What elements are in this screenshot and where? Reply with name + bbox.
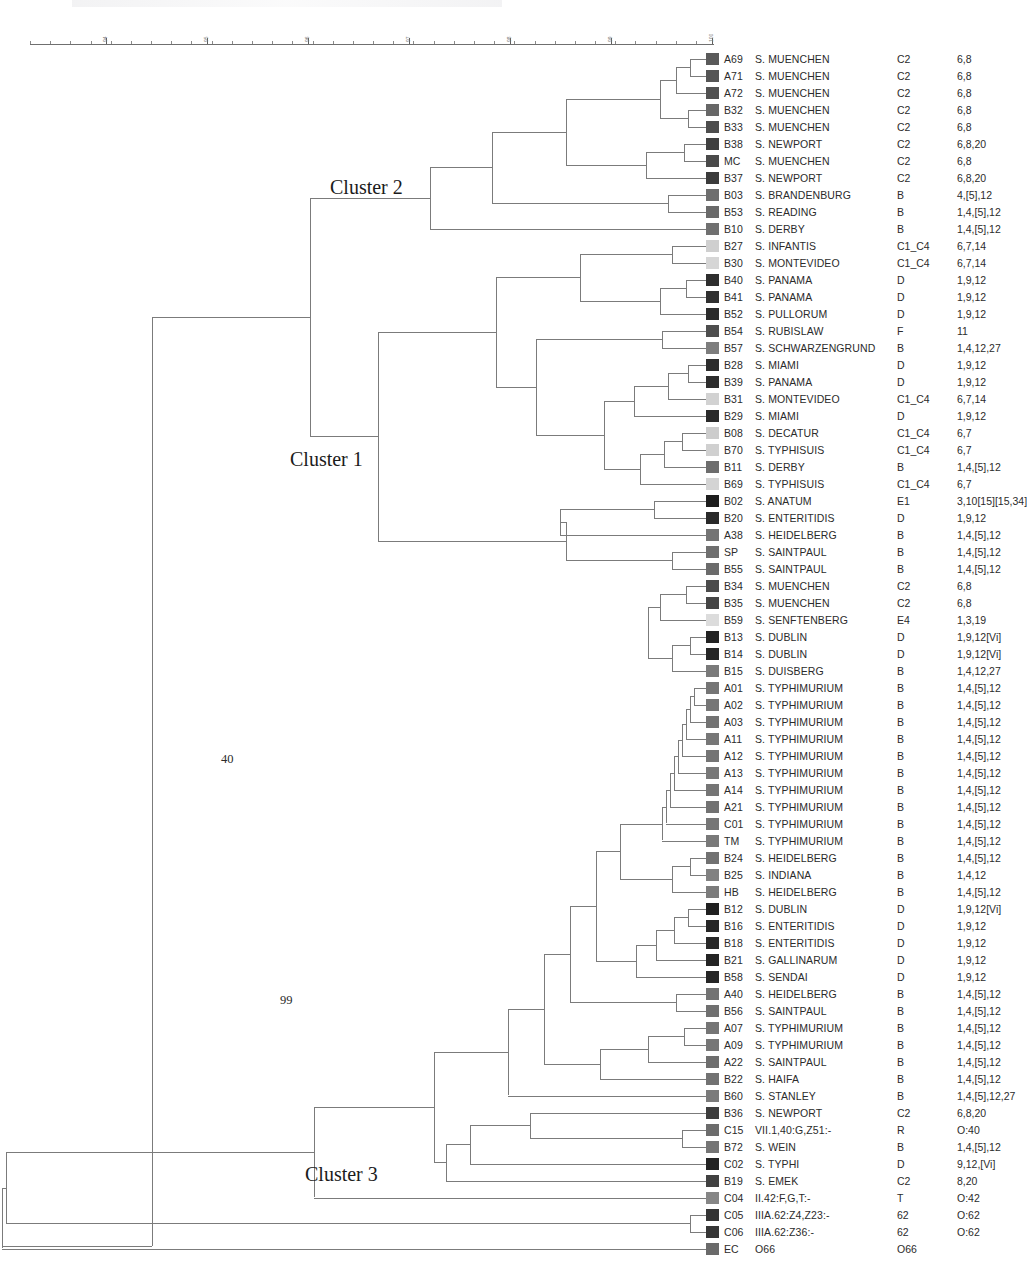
taxon-row[interactable]: B20S. ENTERITIDISD1,9,12	[706, 509, 986, 526]
taxon-row[interactable]: A02S. TYPHIMURIUMB1,4,[5],12	[706, 696, 1001, 713]
taxon-row[interactable]: A40S. HEIDELBERGB1,4,[5],12	[706, 985, 1001, 1002]
taxon-row[interactable]: B69S. TYPHISUISC1_C46,7	[706, 475, 972, 492]
taxon-row[interactable]: A71S. MUENCHENC26,8	[706, 67, 972, 84]
taxon-row[interactable]: B56S. SAINTPAULB1,4,[5],12	[706, 1002, 1001, 1019]
taxon-row[interactable]: B10S. DERBYB1,4,[5],12	[706, 220, 1001, 237]
taxon-id: C01	[724, 818, 755, 830]
taxon-row[interactable]: B15S. DUISBERGB1,4,12,27	[706, 662, 1001, 679]
tree-branch-horizontal	[600, 1049, 648, 1050]
axis-minor-tick	[555, 41, 556, 44]
axis-tick-label: 96	[304, 36, 310, 42]
taxon-row[interactable]: B39S. PANAMAD1,9,12	[706, 373, 986, 390]
taxon-row[interactable]: B13S. DUBLIND1,9,12[Vi]	[706, 628, 1001, 645]
taxon-row[interactable]: A13S. TYPHIMURIUMB1,4,[5],12	[706, 764, 1001, 781]
taxon-row[interactable]: B60S. STANLEYB1,4,[5],12,27	[706, 1087, 1015, 1104]
taxon-serovar-name: S. SAINTPAUL	[755, 1056, 897, 1068]
taxon-row[interactable]: C02S. TYPHID9,12,[Vi]	[706, 1155, 995, 1172]
taxon-id: C04	[724, 1192, 755, 1204]
taxon-row[interactable]: A07S. TYPHIMURIUMB1,4,[5],12	[706, 1019, 1001, 1036]
tree-branch-horizontal	[6, 1152, 314, 1153]
taxon-row[interactable]: B22S. HAIFAB1,4,[5],12	[706, 1070, 1001, 1087]
taxon-row[interactable]: SPS. SAINTPAULB1,4,[5],12	[706, 543, 1001, 560]
taxon-row[interactable]: B27S. INFANTISC1_C46,7,14	[706, 237, 986, 254]
taxon-row[interactable]: B11S. DERBYB1,4,[5],12	[706, 458, 1001, 475]
taxon-row[interactable]: B70S. TYPHISUISC1_C46,7	[706, 441, 972, 458]
taxon-antigenic-formula: 1,4,[5],12	[957, 767, 1001, 779]
tree-branch-vertical	[690, 1215, 691, 1232]
taxon-serogroup: C1_C4	[897, 444, 957, 456]
tree-branch-horizontal	[676, 1011, 706, 1012]
taxon-row[interactable]: B16S. ENTERITIDISD1,9,12	[706, 917, 986, 934]
taxon-row[interactable]: B29S. MIAMID1,9,12	[706, 407, 986, 424]
taxon-row[interactable]: B41S. PANAMAD1,9,12	[706, 288, 986, 305]
taxon-row[interactable]: ECO66O66	[706, 1240, 957, 1257]
taxon-row[interactable]: B31S. MONTEVIDEOC1_C46,7,14	[706, 390, 986, 407]
taxon-antigenic-formula: 6,8	[957, 580, 972, 592]
taxon-row[interactable]: B52S. PULLORUMD1,9,12	[706, 305, 986, 322]
taxon-row[interactable]: B37S. NEWPORTC26,8,20	[706, 169, 986, 186]
taxon-row[interactable]: B55S. SAINTPAULB1,4,[5],12	[706, 560, 1001, 577]
taxon-row[interactable]: B03S. BRANDENBURGB4,[5],12	[706, 186, 992, 203]
taxon-row[interactable]: B32S. MUENCHENC26,8	[706, 101, 972, 118]
taxon-row[interactable]: B38S. NEWPORTC26,8,20	[706, 135, 986, 152]
taxon-row[interactable]: B24S. HEIDELBERGB1,4,[5],12	[706, 849, 1001, 866]
taxon-row[interactable]: B08S. DECATURC1_C46,7	[706, 424, 972, 441]
taxon-row[interactable]: B72S. WEINB1,4,[5],12	[706, 1138, 1001, 1155]
taxon-id: B57	[724, 342, 755, 354]
taxon-row[interactable]: A69S. MUENCHENC26,8	[706, 50, 972, 67]
taxon-row[interactable]: A11S. TYPHIMURIUMB1,4,[5],12	[706, 730, 1001, 747]
taxon-row[interactable]: B58S. SENDAID1,9,12	[706, 968, 986, 985]
taxon-id: B20	[724, 512, 755, 524]
taxon-row[interactable]: B19S. EMEKC28,20	[706, 1172, 977, 1189]
taxon-row[interactable]: B14S. DUBLIND1,9,12[Vi]	[706, 645, 1001, 662]
taxon-row[interactable]: A72S. MUENCHENC26,8	[706, 84, 972, 101]
taxon-antigenic-formula: 1,3,19	[957, 614, 986, 626]
taxon-row[interactable]: C15VII.1,40:G,Z51:-RO:40	[706, 1121, 980, 1138]
gel-band-swatch	[706, 852, 719, 864]
taxon-row[interactable]: B02S. ANATUME13,10[15][15,34]	[706, 492, 1027, 509]
taxon-row[interactable]: A12S. TYPHIMURIUMB1,4,[5],12	[706, 747, 1001, 764]
taxon-row[interactable]: B28S. MIAMID1,9,12	[706, 356, 986, 373]
taxon-serogroup: 62	[897, 1209, 957, 1221]
taxon-row[interactable]: B18S. ENTERITIDISD1,9,12	[706, 934, 986, 951]
taxon-row[interactable]: A22S. SAINTPAULB1,4,[5],12	[706, 1053, 1001, 1070]
gel-band-swatch	[706, 750, 719, 762]
axis-minor-tick	[191, 41, 192, 44]
taxon-row[interactable]: A01S. TYPHIMURIUMB1,4,[5],12	[706, 679, 1001, 696]
taxon-row[interactable]: MCS. MUENCHENC26,8	[706, 152, 972, 169]
tree-branch-horizontal	[596, 961, 636, 962]
taxon-row[interactable]: C04II.42:F,G,T:-TO:42	[706, 1189, 980, 1206]
taxon-row[interactable]: B21S. GALLINARUMD1,9,12	[706, 951, 986, 968]
taxon-row[interactable]: TMS. TYPHIMURIUMB1,4,[5],12	[706, 832, 1001, 849]
taxon-row[interactable]: B36S. NEWPORTC26,8,20	[706, 1104, 986, 1121]
taxon-row[interactable]: A03S. TYPHIMURIUMB1,4,[5],12	[706, 713, 1001, 730]
taxon-row[interactable]: B53S. READINGB1,4,[5],12	[706, 203, 1001, 220]
taxon-row[interactable]: A21S. TYPHIMURIUMB1,4,[5],12	[706, 798, 1001, 815]
taxon-serogroup: B	[897, 699, 957, 711]
taxon-id: B30	[724, 257, 755, 269]
taxon-row[interactable]: B40S. PANAMAD1,9,12	[706, 271, 986, 288]
taxon-antigenic-formula: 3,10[15][15,34]	[957, 495, 1027, 507]
tree-branch-horizontal	[666, 790, 670, 791]
taxon-row[interactable]: C06IIIA.62:Z36:-62O:62	[706, 1223, 980, 1240]
taxon-row[interactable]: B59S. SENFTENBERGE41,3,19	[706, 611, 986, 628]
taxon-row[interactable]: A09S. TYPHIMURIUMB1,4,[5],12	[706, 1036, 1001, 1053]
taxon-row[interactable]: B54S. RUBISLAWF11	[706, 322, 968, 339]
taxon-antigenic-formula: 6,7	[957, 478, 972, 490]
axis-minor-tick	[373, 41, 374, 44]
taxon-row[interactable]: A38S. HEIDELBERGB1,4,[5],12	[706, 526, 1001, 543]
tree-branch-horizontal	[604, 469, 640, 470]
taxon-row[interactable]: C01S. TYPHIMURIUMB1,4,[5],12	[706, 815, 1001, 832]
taxon-row[interactable]: HBS. HEIDELBERGB1,4,[5],12	[706, 883, 1001, 900]
taxon-row[interactable]: B33S. MUENCHENC26,8	[706, 118, 972, 135]
taxon-row[interactable]: B12S. DUBLIND1,9,12[Vi]	[706, 900, 1001, 917]
taxon-row[interactable]: B35S. MUENCHENC26,8	[706, 594, 972, 611]
gel-band-swatch	[706, 138, 719, 150]
taxon-row[interactable]: A14S. TYPHIMURIUMB1,4,[5],12	[706, 781, 1001, 798]
taxon-row[interactable]: B57S. SCHWARZENGRUNDB1,4,12,27	[706, 339, 1001, 356]
tree-branch-horizontal	[430, 167, 492, 168]
taxon-row[interactable]: B34S. MUENCHENC26,8	[706, 577, 972, 594]
taxon-row[interactable]: B30S. MONTEVIDEOC1_C46,7,14	[706, 254, 986, 271]
taxon-row[interactable]: B25S. INDIANAB1,4,12	[706, 866, 986, 883]
taxon-row[interactable]: C05IIIA.62:Z4,Z23:-62O:62	[706, 1206, 980, 1223]
